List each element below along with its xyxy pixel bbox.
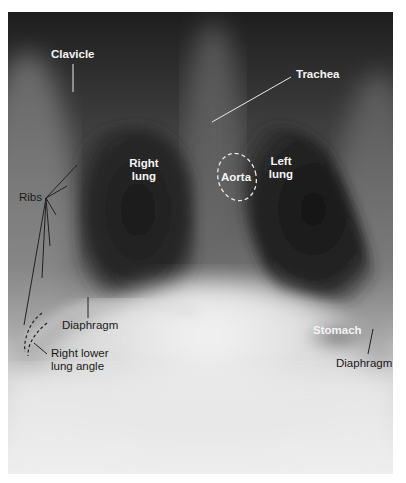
right-lower-lung-angle-label: Right lower lung angle <box>51 347 109 373</box>
stomach-label: Stomach <box>313 324 362 337</box>
right-lung-label: Right lung <box>126 157 162 183</box>
diaphragm-left-label: Diaphragm <box>336 357 392 370</box>
trachea-leader-line <box>212 77 291 122</box>
annotation-layer <box>0 0 406 483</box>
clavicle-label: Clavicle <box>51 48 94 61</box>
aorta-label: Aorta <box>221 171 251 184</box>
ribs-leader-lines <box>24 165 77 325</box>
lung-angle-dashes <box>25 313 47 356</box>
trachea-label: Trachea <box>296 68 339 81</box>
lung-angle-leader-line <box>34 343 47 354</box>
left-lung-label: Left lung <box>266 155 296 181</box>
diaphragm-right-label: Diaphragm <box>62 319 118 332</box>
ribs-label: Ribs <box>19 191 42 204</box>
diaphragm-left-leader-line <box>368 329 373 354</box>
